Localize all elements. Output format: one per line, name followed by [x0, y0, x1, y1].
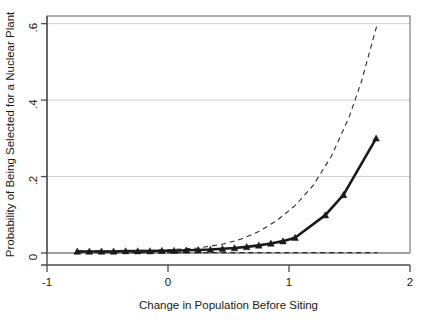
- x-tick-label: 0: [165, 276, 171, 288]
- probability-line-chart: -1012 0.2.4.6 Change in Population Befor…: [0, 0, 430, 320]
- x-tick-label: 1: [286, 276, 292, 288]
- x-tick-label: 2: [407, 276, 413, 288]
- y-axis-title: Probability of Being Selected for a Nucl…: [4, 11, 16, 257]
- y-tick-label: .4: [27, 99, 39, 109]
- x-axis-title: Change in Population Before Siting: [139, 299, 318, 311]
- x-tick-label: -1: [42, 276, 52, 288]
- figure-container: -1012 0.2.4.6 Change in Population Befor…: [0, 0, 430, 320]
- y-tick-label: 0: [27, 254, 39, 260]
- chart-background: [0, 0, 430, 320]
- y-tick-label: .2: [27, 176, 39, 186]
- y-tick-label: .6: [27, 23, 39, 33]
